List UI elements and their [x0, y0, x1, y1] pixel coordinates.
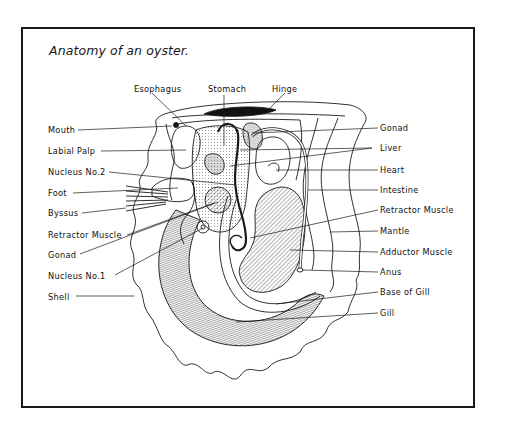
- label-gonad-right: Gonad: [380, 123, 408, 133]
- label-nucleus-no1: Nucleus No.1: [48, 271, 106, 281]
- label-retractor-muscle-right: Retractor Muscle: [380, 205, 454, 215]
- retractor-muscle: [205, 187, 231, 213]
- label-gonad-left: Gonad: [48, 250, 76, 260]
- foot: [152, 178, 194, 202]
- adductor-muscle: [239, 187, 305, 292]
- label-adductor-muscle: Adductor Muscle: [380, 247, 453, 257]
- label-mantle: Mantle: [380, 226, 410, 236]
- label-byssus: Byssus: [48, 208, 78, 218]
- label-hinge: Hinge: [272, 84, 297, 94]
- label-anus: Anus: [380, 267, 401, 277]
- label-esophagus: Esophagus: [134, 84, 181, 94]
- label-gill: Gill: [380, 308, 394, 318]
- label-retractor-muscle-left: Retractor Muscle: [48, 230, 122, 240]
- label-liver: Liver: [380, 143, 402, 153]
- mouth: [174, 123, 179, 128]
- label-base-of-gill: Base of Gill: [380, 287, 430, 297]
- label-nucleus-no2: Nucleus No.2: [48, 167, 106, 177]
- label-shell: Shell: [48, 292, 69, 302]
- label-foot: Foot: [48, 188, 67, 198]
- label-intestine: Intestine: [380, 185, 419, 195]
- label-stomach: Stomach: [208, 84, 246, 94]
- label-labial-palp: Labial Palp: [48, 146, 95, 156]
- label-heart: Heart: [380, 165, 404, 175]
- label-mouth: Mouth: [48, 125, 75, 135]
